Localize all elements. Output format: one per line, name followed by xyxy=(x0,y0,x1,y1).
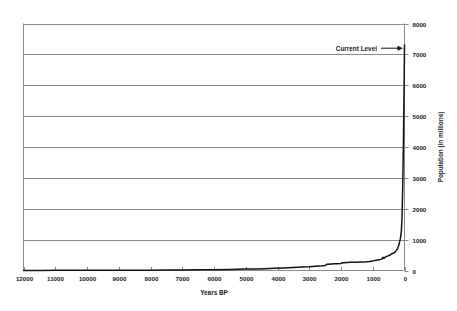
current-level-label: Current Level xyxy=(336,45,377,52)
x-tick-label-5000: 5000 xyxy=(240,275,254,282)
x-tick-label-7000: 7000 xyxy=(176,275,190,282)
y-tick-label-5000: 5000 xyxy=(413,113,427,120)
x-tick-label-3000: 3000 xyxy=(303,275,317,282)
x-tick-label-1000: 1000 xyxy=(367,275,381,282)
x-tick-label-6000: 6000 xyxy=(208,275,222,282)
y-tick-label-6000: 6000 xyxy=(413,82,427,89)
y-tick-label-0: 0 xyxy=(413,268,417,275)
y-tick-label-3000: 3000 xyxy=(413,175,427,182)
population-curve xyxy=(24,45,405,270)
y-tick-label-group: 010002000300040005000600070008000 xyxy=(413,21,427,275)
y-tick-label-4000: 4000 xyxy=(413,144,427,151)
gridline-group xyxy=(24,25,405,241)
x-tick-label-4000: 4000 xyxy=(272,275,286,282)
x-tick-label-8000: 8000 xyxy=(145,275,159,282)
x-tick-label-2000: 2000 xyxy=(335,275,349,282)
x-tick-label-9000: 9000 xyxy=(113,275,127,282)
x-tick-label-11000: 11000 xyxy=(47,275,64,282)
population-chart: 1200011000100009000800070006000500040003… xyxy=(0,0,457,311)
y-tick-label-7000: 7000 xyxy=(413,51,427,58)
chart-canvas: 1200011000100009000800070006000500040003… xyxy=(0,0,457,311)
y-tick-label-8000: 8000 xyxy=(413,21,427,28)
x-tick-label-10000: 10000 xyxy=(79,275,97,282)
current-level-arrow-head xyxy=(398,46,404,51)
y-tick-label-2000: 2000 xyxy=(413,206,427,213)
x-tick-label-group: 1200011000100009000800070006000500040003… xyxy=(16,275,408,282)
y-axis-title: Population (in millions) xyxy=(437,112,445,183)
x-axis-title: Years BP xyxy=(200,289,228,296)
x-tick-label-0: 0 xyxy=(404,275,408,282)
y-tick-label-1000: 1000 xyxy=(413,237,427,244)
x-tick-label-12000: 12000 xyxy=(16,275,34,282)
